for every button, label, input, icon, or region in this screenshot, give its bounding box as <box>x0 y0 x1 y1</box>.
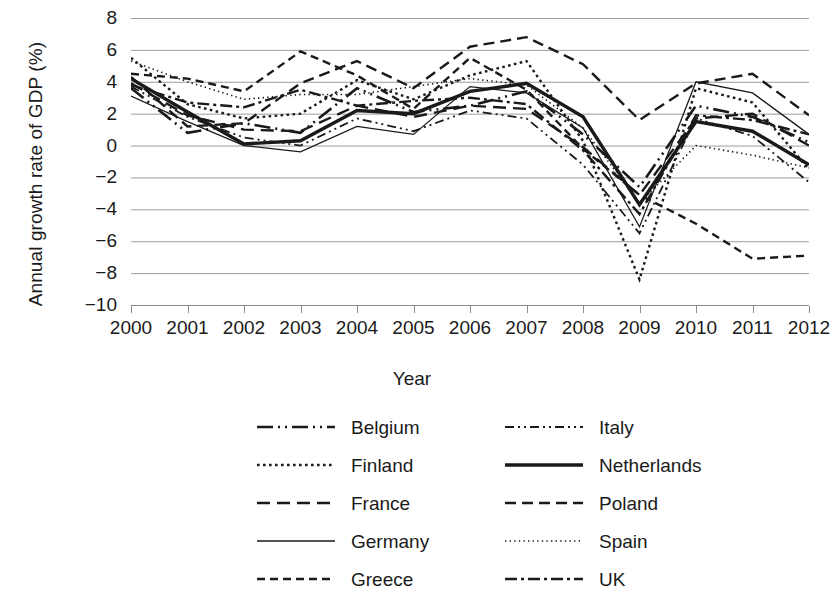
x-tick-label: 2006 <box>440 317 500 339</box>
y-tick-label: 6 <box>55 40 117 59</box>
plot-svg <box>131 18 809 305</box>
x-axis-title: Year <box>0 368 824 390</box>
x-axis-line <box>131 305 809 315</box>
x-axis-tick <box>470 306 471 313</box>
legend-label: France <box>351 494 410 513</box>
legend-item-spain[interactable]: Spain <box>503 522 763 560</box>
x-tick-label: 2011 <box>723 317 783 339</box>
legend-item-uk[interactable]: UK <box>503 560 763 598</box>
x-axis-tick <box>696 306 697 313</box>
x-axis-tick <box>357 306 358 313</box>
y-axis-tick-labels: 86420−2−4−6−8−10 <box>55 0 117 330</box>
y-tick-label: 0 <box>55 136 117 155</box>
legend-line-swatch <box>503 418 585 436</box>
legend-line-swatch <box>255 494 337 512</box>
x-axis-tick <box>809 306 810 313</box>
legend-item-greece[interactable]: Greece <box>255 560 485 598</box>
x-axis-tick <box>188 306 189 313</box>
y-tick-label: 8 <box>55 8 117 27</box>
legend-label: UK <box>599 570 625 589</box>
y-tick-label: −2 <box>55 167 117 186</box>
x-axis-tick <box>244 306 245 313</box>
x-tick-label: 2010 <box>666 317 726 339</box>
x-tick-label: 2000 <box>101 317 161 339</box>
legend-item-netherlands[interactable]: Netherlands <box>503 446 763 484</box>
x-tick-label: 2012 <box>779 317 834 339</box>
x-axis-tick <box>301 306 302 313</box>
y-tick-label: 2 <box>55 104 117 123</box>
series-line-uk <box>131 85 809 214</box>
y-tick-label: −10 <box>55 295 117 314</box>
legend-label: Belgium <box>351 418 420 437</box>
legend-line-swatch <box>503 456 585 474</box>
x-axis-tick <box>131 306 132 313</box>
legend-label: Italy <box>599 418 634 437</box>
legend-item-italy[interactable]: Italy <box>503 408 763 446</box>
legend-item-finland[interactable]: Finland <box>255 446 485 484</box>
legend-label: Spain <box>599 532 648 551</box>
x-tick-label: 2004 <box>327 317 387 339</box>
x-axis-tick <box>753 306 754 313</box>
x-axis-tick <box>527 306 528 313</box>
legend-label: Poland <box>599 494 658 513</box>
x-axis-tick <box>414 306 415 313</box>
legend-item-poland[interactable]: Poland <box>503 484 763 522</box>
legend-line-swatch <box>255 570 337 588</box>
x-tick-label: 2009 <box>610 317 670 339</box>
x-tick-label: 2003 <box>271 317 331 339</box>
x-axis-tick-labels: 2000200120022003200420052006200720082009… <box>110 317 824 343</box>
y-axis-title: Annual growth rate of GDP (%) <box>22 14 50 334</box>
x-axis-tick <box>640 306 641 313</box>
x-tick-label: 2002 <box>214 317 274 339</box>
y-tick-label: −6 <box>55 231 117 250</box>
y-tick-label: −8 <box>55 263 117 282</box>
series-line-germany <box>131 82 809 227</box>
legend-label: Netherlands <box>599 456 701 475</box>
x-tick-label: 2007 <box>497 317 557 339</box>
legend-item-france[interactable]: France <box>255 484 485 522</box>
legend-item-belgium[interactable]: Belgium <box>255 408 485 446</box>
legend-line-swatch <box>255 418 337 436</box>
legend-label: Germany <box>351 532 429 551</box>
x-tick-label: 2008 <box>553 317 613 339</box>
legend-line-swatch <box>503 570 585 588</box>
legend-line-swatch <box>255 532 337 550</box>
plot-area <box>131 18 809 305</box>
y-tick-label: 4 <box>55 72 117 91</box>
chart-legend: BelgiumFinlandFranceGermanyGreeceItalyNe… <box>255 408 775 608</box>
x-tick-label: 2005 <box>384 317 444 339</box>
y-tick-label: −4 <box>55 199 117 218</box>
x-axis-tick <box>583 306 584 313</box>
legend-line-swatch <box>503 494 585 512</box>
x-tick-label: 2001 <box>158 317 218 339</box>
legend-line-swatch <box>255 456 337 474</box>
legend-label: Greece <box>351 570 413 589</box>
legend-line-swatch <box>503 532 585 550</box>
legend-label: Finland <box>351 456 413 475</box>
legend-item-germany[interactable]: Germany <box>255 522 485 560</box>
